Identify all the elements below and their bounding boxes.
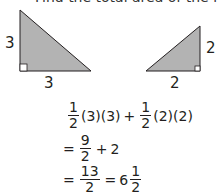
right-angle-marker — [195, 66, 200, 71]
equation-line-2: = 9 2 + 2 — [63, 134, 119, 163]
fraction-one-half: 1 2 — [68, 101, 79, 130]
fraction-thirteen-halves: 13 2 — [80, 165, 100, 194]
right-triangle-base-label: 2 — [170, 76, 180, 91]
right-triangle-height-label: 2 — [206, 41, 216, 56]
fraction-one-half: 1 2 — [130, 165, 141, 194]
triangles-figure — [0, 0, 217, 96]
left-triangle-base-label: 3 — [44, 76, 54, 91]
left-triangle — [20, 10, 91, 71]
left-triangle-height-label: 3 — [5, 36, 15, 51]
right-angle-marker — [20, 64, 27, 71]
fraction-one-half: 1 2 — [140, 101, 151, 130]
fraction-nine-halves: 9 2 — [80, 134, 91, 163]
equation-line-3: = 13 2 = 6 1 2 — [63, 165, 143, 194]
right-triangle — [146, 26, 200, 71]
equation-line-1: 1 2 (3)(3) + 1 2 (2)(2) — [66, 101, 193, 130]
